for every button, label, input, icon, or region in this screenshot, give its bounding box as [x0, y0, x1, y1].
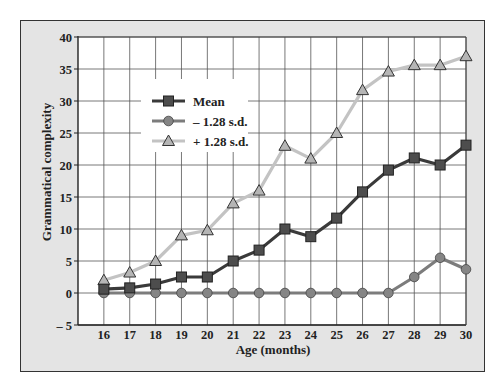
y-axis-label: Grammatical complexity	[39, 102, 54, 241]
x-tick-label: 19	[175, 328, 188, 342]
data-point-circle-marker	[280, 288, 290, 298]
data-point-square-marker	[254, 245, 264, 255]
legend-label: – 1.28 s.d.	[192, 114, 248, 129]
legend-square-marker	[164, 96, 174, 106]
y-tick-label: – 5	[55, 319, 72, 333]
data-point-circle-marker	[228, 288, 238, 298]
data-point-square-marker	[435, 160, 445, 170]
y-tick-label: 25	[60, 127, 73, 141]
data-point-circle-marker	[177, 288, 187, 298]
x-tick-label: 16	[98, 328, 111, 342]
data-point-circle-marker	[435, 253, 445, 263]
data-point-square-marker	[202, 272, 212, 282]
data-point-square-marker	[99, 284, 109, 294]
x-tick-label: 29	[434, 328, 447, 342]
data-point-circle-marker	[203, 288, 213, 298]
legend-label: Mean	[193, 94, 226, 109]
x-tick-label: 30	[460, 328, 473, 342]
y-tick-label: 0	[66, 287, 72, 301]
legend: Mean– 1.28 s.d.+ 1.28 s.d.	[141, 79, 248, 152]
x-tick-label: 18	[149, 328, 162, 342]
y-tick-label: 15	[60, 191, 73, 205]
x-tick-label: 17	[123, 328, 136, 342]
data-point-circle-marker	[409, 272, 419, 282]
data-point-circle-marker	[461, 265, 471, 275]
data-point-square-marker	[280, 224, 290, 234]
x-tick-label: 28	[408, 328, 421, 342]
data-point-square-marker	[125, 283, 135, 293]
x-tick-label: 24	[305, 328, 318, 342]
y-tick-label: 40	[60, 31, 73, 45]
y-tick-label: 35	[60, 63, 73, 77]
y-tick-label: 30	[60, 95, 73, 109]
x-tick-label: 21	[227, 328, 240, 342]
x-tick-label: 22	[253, 328, 266, 342]
y-tick-label: 20	[60, 159, 73, 173]
data-point-circle-marker	[306, 288, 316, 298]
x-tick-label: 25	[330, 328, 343, 342]
data-point-circle-marker	[332, 288, 342, 298]
x-tick-label: 23	[279, 328, 292, 342]
data-point-square-marker	[228, 256, 238, 266]
data-point-circle-marker	[254, 288, 264, 298]
data-point-square-marker	[176, 272, 186, 282]
data-point-circle-marker	[151, 288, 161, 298]
y-tick-label: 5	[66, 255, 72, 269]
line-chart: Mean– 1.28 s.d.+ 1.28 s.d. 4035302520151…	[0, 0, 502, 391]
x-tick-label: 26	[356, 328, 369, 342]
data-point-square-marker	[383, 165, 393, 175]
data-point-square-marker	[461, 140, 471, 150]
data-point-square-marker	[151, 279, 161, 289]
x-tick-label: 20	[201, 328, 214, 342]
data-point-circle-marker	[384, 288, 394, 298]
data-point-square-marker	[358, 187, 368, 197]
legend-label: + 1.28 s.d.	[193, 134, 248, 149]
y-axis-ticks: 4035302520151050– 5	[55, 31, 78, 333]
x-axis-label: Age (months)	[236, 342, 311, 357]
legend-circle-marker	[164, 116, 174, 126]
data-point-square-marker	[332, 213, 342, 223]
data-point-circle-marker	[358, 288, 368, 298]
y-tick-label: 10	[60, 223, 73, 237]
data-point-square-marker	[409, 153, 419, 163]
x-tick-label: 27	[382, 328, 395, 342]
x-axis-ticks: 161718192021222324252627282930	[98, 328, 473, 342]
data-point-square-marker	[306, 232, 316, 242]
